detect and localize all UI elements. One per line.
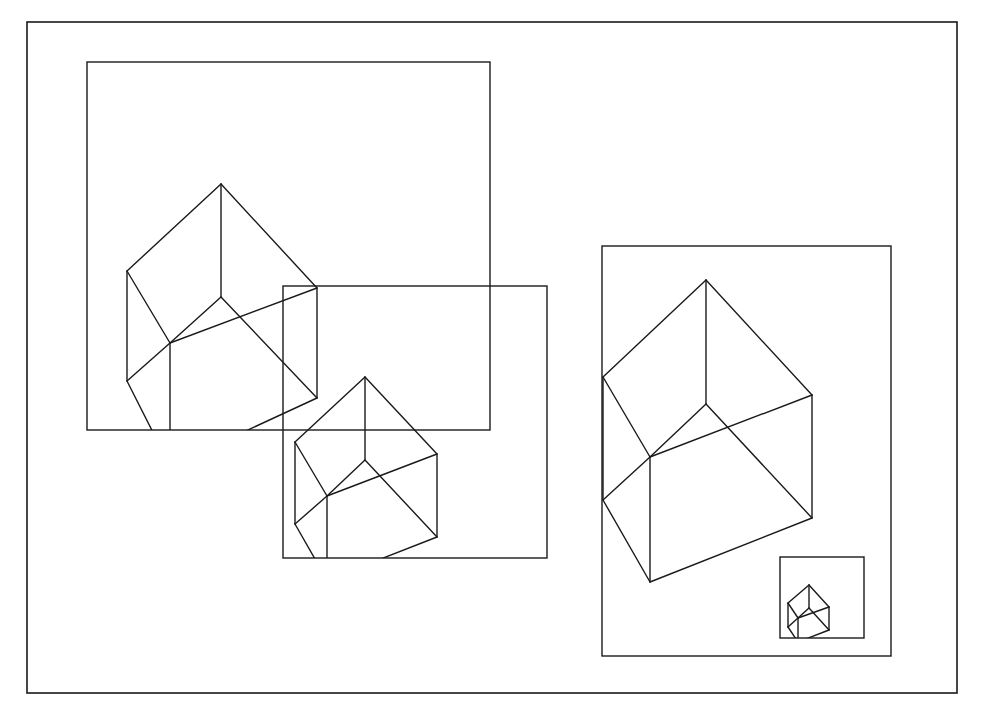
- cube-edge: [327, 460, 365, 496]
- cube-edge: [650, 395, 812, 457]
- cube-edge: [365, 377, 437, 454]
- outer-frame: [27, 22, 957, 693]
- cube-edge: [295, 442, 327, 496]
- cube-edge: [295, 496, 327, 524]
- window-3: [602, 246, 891, 656]
- cube-2: [295, 377, 437, 580]
- cube-edge: [221, 297, 317, 398]
- cube-edge: [650, 404, 706, 457]
- cube-1: [127, 184, 317, 466]
- wireframe-cubes: [127, 184, 829, 642]
- cube-edge: [809, 585, 829, 607]
- cube-edge: [365, 460, 437, 537]
- cube-edge: [809, 608, 829, 630]
- cube-edge: [706, 404, 812, 518]
- cube-edge: [788, 585, 809, 603]
- cube-edge: [603, 457, 650, 500]
- cube-edge: [788, 603, 798, 618]
- cube-3: [603, 280, 812, 582]
- nested-viewports-diagram: [0, 0, 988, 707]
- cube-edge: [221, 184, 317, 288]
- cube-edge: [788, 627, 798, 642]
- cube-edge: [127, 271, 170, 343]
- cube-edge: [603, 500, 650, 582]
- cube-4: [788, 585, 829, 642]
- cube-edge: [650, 518, 812, 582]
- viewport-windows: [87, 62, 891, 656]
- cube-edge: [127, 381, 170, 466]
- cube-edge: [603, 377, 650, 457]
- cube-edge: [127, 184, 221, 271]
- diagram-canvas: [0, 0, 988, 707]
- window-1: [87, 62, 490, 430]
- cube-edge: [706, 280, 812, 395]
- window-2: [283, 286, 547, 558]
- cube-edge: [170, 297, 221, 343]
- window-4: [780, 557, 864, 638]
- cube-edge: [798, 630, 829, 642]
- cube-edge: [788, 618, 798, 627]
- cube-edge: [127, 343, 170, 381]
- cube-edge: [327, 454, 437, 496]
- cube-edge: [170, 288, 317, 343]
- cube-edge: [603, 280, 706, 377]
- cube-edge: [295, 524, 327, 580]
